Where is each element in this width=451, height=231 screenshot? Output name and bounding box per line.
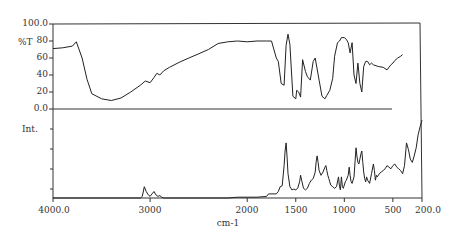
ytick-40: 40: [12, 69, 48, 79]
xtick-500: 500: [384, 205, 401, 215]
ytick-0: 0.0: [12, 103, 48, 113]
spectrum-chart: [0, 0, 451, 231]
lower-ylabel: Int.: [22, 124, 38, 134]
axis-frame: [53, 23, 422, 198]
ir-transmittance-line: [53, 34, 403, 100]
raman-intensity-line: [53, 120, 422, 198]
xtick-200: 200.0: [415, 205, 441, 215]
xtick-2000: 2000: [236, 205, 259, 215]
xtick-3000: 3000: [139, 205, 162, 215]
upper-ylabel: %T: [18, 37, 33, 47]
ytick-100: 100.0: [12, 18, 48, 28]
axis-ticks: [49, 24, 422, 202]
xtick-1500: 1500: [285, 205, 308, 215]
xlabel: cm-1: [217, 218, 239, 228]
xtick-1000: 1000: [333, 205, 356, 215]
ytick-20: 20: [12, 86, 48, 96]
ytick-60: 60: [12, 52, 48, 62]
xtick-4000: 4000.0: [38, 205, 70, 215]
